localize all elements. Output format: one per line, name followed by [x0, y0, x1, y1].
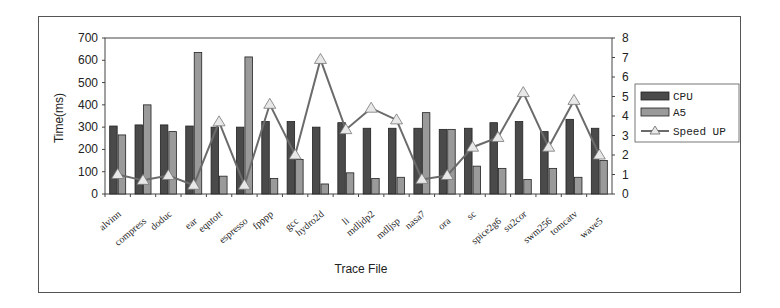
- bar-cpu: [515, 122, 523, 194]
- right-tick-label: 2: [622, 148, 629, 162]
- bar-a5: [473, 166, 481, 194]
- bar-a5: [397, 177, 405, 194]
- bar-cpu: [262, 122, 270, 194]
- x-category-label: sc: [464, 208, 478, 222]
- x-category-label: ear: [183, 215, 200, 232]
- bar-a5: [321, 184, 329, 194]
- bar-a5: [169, 132, 177, 194]
- y-axis-title: Time(ms): [52, 93, 66, 143]
- bar-a5: [549, 168, 557, 194]
- x-category-label: nasa7: [403, 208, 428, 231]
- right-y-axis: 012345678: [612, 31, 629, 201]
- x-category-label: su2cor: [501, 208, 529, 234]
- bar-a5: [498, 168, 506, 194]
- bar-cpu: [160, 125, 168, 194]
- x-category-label: doduc: [148, 208, 174, 232]
- right-tick-label: 3: [622, 129, 629, 143]
- bar-cpu: [541, 132, 549, 194]
- left-tick-label: 700: [78, 31, 98, 45]
- left-tick-label: 600: [78, 53, 98, 67]
- right-tick-label: 1: [622, 168, 629, 182]
- legend-swatch-a5: [641, 108, 669, 116]
- bar-a5: [448, 129, 456, 194]
- x-axis-title: Trace File: [335, 262, 388, 276]
- legend-swatch-cpu: [641, 92, 669, 100]
- bar-cpu: [566, 119, 574, 194]
- right-tick-label: 4: [622, 109, 629, 123]
- x-category-label: wave5: [578, 215, 605, 240]
- plot-border: [105, 38, 612, 194]
- bar-cpu: [312, 127, 320, 194]
- bar-a5: [296, 159, 304, 194]
- legend: CPU A5 Speed UP: [635, 84, 739, 142]
- right-tick-label: 7: [622, 51, 629, 65]
- right-tick-label: 5: [622, 90, 629, 104]
- left-tick-label: 200: [78, 142, 98, 156]
- right-tick-label: 0: [622, 187, 629, 201]
- left-y-axis: 0100200300400500600700: [78, 31, 105, 201]
- x-category-label: alvinn: [97, 208, 123, 232]
- left-tick-label: 100: [78, 165, 98, 179]
- bar-cpu: [363, 128, 371, 194]
- bar-a5: [118, 135, 126, 194]
- chart: 0100200300400500600700 012345678 alvinnc…: [0, 0, 780, 308]
- left-tick-label: 300: [78, 120, 98, 134]
- x-category-label: mdljsp: [374, 215, 402, 241]
- bar-a5: [372, 178, 380, 194]
- legend-label-speedup: Speed UP: [673, 126, 726, 138]
- plot-area: [105, 38, 612, 194]
- bar-a5: [346, 173, 354, 194]
- bar-a5: [574, 177, 582, 194]
- bar-a5: [600, 161, 608, 194]
- x-category-label: ora: [436, 215, 453, 232]
- x-category-label: fpppp: [250, 208, 275, 231]
- left-tick-label: 400: [78, 98, 98, 112]
- bar-a5: [270, 178, 278, 194]
- right-tick-label: 8: [622, 31, 629, 45]
- right-tick-label: 6: [622, 70, 629, 84]
- left-tick-label: 500: [78, 76, 98, 90]
- bar-a5: [220, 176, 228, 194]
- bar-cpu: [389, 128, 397, 194]
- x-category-label: eqntott: [196, 208, 225, 234]
- left-tick-label: 0: [91, 187, 98, 201]
- bar-cpu: [439, 129, 447, 194]
- x-category-label: espresso: [217, 215, 250, 245]
- bar-cpu: [110, 126, 118, 194]
- x-category-label: spice2g6: [469, 215, 503, 246]
- x-axis: alvinncompressdoduceareqntottespressofpp…: [97, 194, 605, 248]
- legend-label-a5: A5: [673, 107, 686, 119]
- legend-label-cpu: CPU: [673, 91, 693, 103]
- bar-cpu: [465, 128, 473, 194]
- bar-a5: [524, 180, 532, 194]
